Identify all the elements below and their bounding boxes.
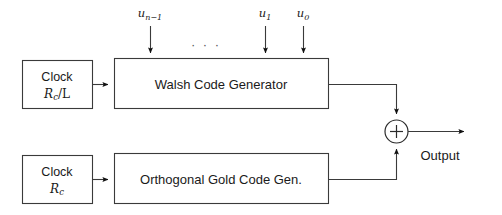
clock-bottom-label: Clock	[41, 166, 72, 179]
clock-bottom-rate: Rc	[50, 183, 64, 197]
output-label: Output	[420, 149, 459, 162]
clock-top-rate: Rc/L	[44, 88, 70, 102]
clock-bottom-rate-sub: c	[59, 187, 64, 197]
input-label-u-1: u1	[259, 8, 272, 21]
walsh-code-generator-label: Walsh Code Generator	[155, 78, 287, 91]
orthogonal-gold-code-generator-label: Orthogonal Gold Code Gen.	[140, 173, 302, 186]
clock-top-label: Clock	[41, 71, 72, 84]
input-label-u-0: u0	[297, 8, 310, 21]
input-ellipsis: · · ·	[191, 38, 221, 51]
input-label-u-n-minus-1: un−1	[138, 8, 162, 21]
clock-bottom-rate-base: R	[50, 182, 59, 196]
clock-top-rate-base: R	[44, 87, 53, 101]
input-u-0-sub: 0	[304, 13, 309, 22]
wire-gold-to-adder	[329, 149, 397, 180]
diagram-canvas: Clock Rc/L Clock Rc Walsh Code Generator…	[0, 0, 502, 215]
input-u-1-sub: 1	[266, 13, 271, 22]
clock-top-rate-op: /L	[58, 87, 70, 101]
input-u-n-minus-1-sub: n−1	[145, 13, 162, 22]
wire-walsh-to-adder	[329, 85, 397, 115]
